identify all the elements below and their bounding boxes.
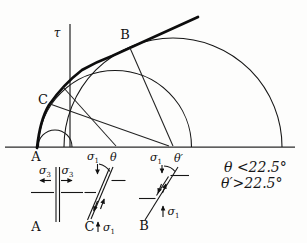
failure-envelope-figure: τ A C B σ 3 σ 3 A σ 1 θ [0,0,307,243]
mohr-diagram: τ A C B [5,17,295,164]
radius-line-c-circle [63,87,116,146]
point-b-label: B [120,27,130,42]
stress-element-c: σ 1 θ C σ 1 [85,150,126,236]
fracture-plane-line [88,168,110,220]
shear-arrow-icon [101,199,105,209]
mohr-circle-a [38,130,72,147]
mohr-circle-b [64,38,282,147]
point-a-label: A [30,149,41,164]
theta-condition-text: θ <22.5° [224,159,287,175]
element-a-caption: A [30,219,41,234]
sigma3-right-subscript: 3 [69,171,73,179]
theta-prime-angle-arc [164,166,175,172]
construction-line-from-c [50,104,169,146]
theta-prime-condition-text: θ′>22.5° [221,175,283,191]
sigma3-left-subscript: 3 [47,171,51,179]
theta-label: θ [110,151,117,164]
stress-element-b: σ 1 θ′ σ 1 B [139,151,189,233]
tau-axis-label: τ [54,26,61,40]
theta-prime-label: θ′ [174,152,184,165]
radius-line-b-circle [130,48,173,146]
element-c-caption: C [85,219,95,234]
sigma1-bottom-subscript: 1 [111,228,115,236]
sigma1-top-subscript: 1 [158,158,162,166]
sigma1-top-subscript: 1 [95,157,99,165]
angle-annotations: θ <22.5° θ′>22.5° [221,159,287,191]
figure-svg: τ A C B σ 3 σ 3 A σ 1 θ [0,0,307,243]
element-b-caption: B [139,218,149,233]
stress-element-a: σ 3 σ 3 A [30,164,83,234]
sigma1-bottom-subscript: 1 [175,212,179,220]
point-c-label: C [38,92,48,107]
